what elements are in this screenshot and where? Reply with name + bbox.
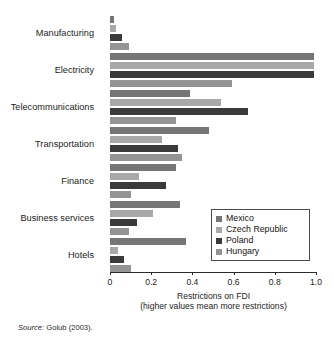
category-label: Business services [0,213,94,223]
legend-swatch-icon [216,249,222,255]
bar [110,117,176,124]
bar [110,228,129,235]
bar [110,201,180,208]
legend-label: Hungary [226,246,259,257]
bar [110,71,314,78]
bar [110,99,221,106]
x-axis-tick-label: 0.8 [255,277,295,287]
bar [110,182,166,189]
legend-swatch-icon [216,238,222,244]
source-note: Source: Golub (2003). [18,323,93,332]
category-label: Hotels [0,250,94,260]
figure-container: ManufacturingElectricityTelecommunicatio… [0,0,334,345]
category-label: Transportation [0,139,94,149]
bar [110,173,139,180]
bar [110,191,131,198]
bar [110,210,153,217]
x-axis-tick-label: 0.4 [172,277,212,287]
x-axis-tick-label: 0 [90,277,130,287]
legend-item[interactable]: Czech Republic [216,224,305,235]
bar [110,256,124,263]
bar [110,62,314,69]
bar [110,25,116,32]
bar [110,154,182,161]
source-citation: Golub (2003). [46,323,92,332]
category-label: Finance [0,176,94,186]
bar [110,247,118,254]
x-axis-tick-label: 0.2 [131,277,171,287]
category-label: Manufacturing [0,28,94,38]
bar [110,127,209,134]
bar [110,53,314,60]
category-label: Electricity [0,65,94,75]
x-axis-line [110,272,317,273]
x-axis-tick-label: 0.6 [214,277,254,287]
bar [110,16,114,23]
bar [110,43,129,50]
legend-row-group: MexicoCzech RepublicPolandHungary [216,213,305,257]
legend-label: Mexico [226,213,254,224]
bar [110,136,162,143]
chart-legend: MexicoCzech RepublicPolandHungary [211,209,310,261]
bar [110,238,186,245]
bar [110,219,137,226]
legend-item[interactable]: Poland [216,235,305,246]
x-axis-tick [110,272,111,275]
legend-item[interactable]: Hungary [216,246,305,257]
bar [110,145,178,152]
source-label: Source: [18,323,44,332]
bar [110,164,176,171]
bar [110,265,131,272]
x-axis-tick [151,272,152,275]
legend-item[interactable]: Mexico [216,213,305,224]
legend-swatch-icon [216,227,222,233]
bar [110,108,248,115]
x-axis-tick [275,272,276,275]
bar [110,34,122,41]
x-axis-title-line2: (higher values mean more restrictions) [110,301,317,312]
legend-label: Czech Republic [226,224,288,235]
legend-swatch-icon [216,216,222,222]
bar [110,90,190,97]
x-axis-tick-label: 1.0 [296,277,334,287]
bar [110,80,232,87]
legend-label: Poland [226,235,253,246]
category-label: Telecommunications [0,102,94,112]
x-axis-tick [192,272,193,275]
x-axis-tick [316,272,317,275]
x-axis-title-line1: Restrictions on FDI [110,291,317,302]
x-axis-tick [234,272,235,275]
